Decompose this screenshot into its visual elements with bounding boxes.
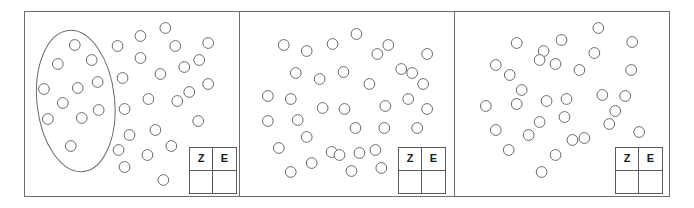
circle-outside-ellipse — [523, 130, 534, 141]
circle-outside-ellipse — [119, 162, 130, 173]
panel-1[interactable]: Z E — [25, 12, 239, 196]
circle-outside-ellipse — [556, 35, 567, 46]
circle-outside-ellipse — [490, 125, 501, 136]
circle-outside-ellipse — [143, 94, 154, 105]
circle-inside-ellipse — [39, 84, 50, 95]
circle-outside-ellipse — [480, 101, 491, 112]
circle-outside-ellipse — [273, 143, 284, 154]
circle-outside-ellipse — [155, 69, 166, 80]
circle-outside-ellipse — [158, 175, 169, 186]
circle-outside-ellipse — [534, 117, 545, 128]
score-value-z[interactable] — [616, 171, 639, 194]
circle-outside-ellipse — [396, 64, 407, 75]
circle-inside-ellipse — [72, 83, 83, 94]
circle-outside-ellipse — [538, 46, 549, 57]
circle-outside-ellipse — [511, 99, 522, 110]
figure-root: Z E Z E — [0, 0, 694, 208]
circle-outside-ellipse — [172, 96, 183, 107]
circle-outside-ellipse — [412, 123, 423, 134]
circle-inside-ellipse — [65, 141, 76, 152]
circle-inside-ellipse — [69, 40, 80, 51]
circle-outside-ellipse — [262, 116, 273, 127]
circle-inside-ellipse — [92, 77, 103, 88]
score-value-e[interactable] — [422, 171, 445, 194]
circle-outside-ellipse — [112, 41, 123, 52]
circle-outside-ellipse — [203, 38, 214, 49]
score-value-e[interactable] — [639, 171, 662, 194]
score-value-z[interactable] — [190, 171, 213, 194]
circle-inside-ellipse — [86, 55, 97, 66]
circle-outside-ellipse — [339, 104, 350, 115]
circle-outside-ellipse — [285, 94, 296, 105]
panel-3[interactable]: Z E — [454, 12, 669, 196]
circle-outside-ellipse — [407, 68, 418, 79]
circle-outside-ellipse — [135, 31, 146, 42]
circle-outside-ellipse — [119, 104, 130, 115]
circle-outside-ellipse — [511, 38, 522, 49]
circle-outside-ellipse — [354, 148, 365, 159]
circle-outside-ellipse — [135, 53, 146, 64]
circle-outside-ellipse — [550, 59, 561, 70]
circle-outside-ellipse — [160, 23, 171, 34]
circle-outside-ellipse — [346, 166, 357, 177]
circle-outside-ellipse — [604, 119, 615, 130]
circle-outside-ellipse — [589, 48, 600, 59]
circle-outside-ellipse — [338, 67, 349, 78]
circle-outside-ellipse — [561, 94, 572, 105]
circle-outside-ellipse — [536, 167, 547, 178]
circle-outside-ellipse — [597, 90, 608, 101]
circle-outside-ellipse — [327, 39, 338, 50]
circle-outside-ellipse — [351, 29, 362, 40]
circle-outside-ellipse — [142, 150, 153, 161]
circle-outside-ellipse — [292, 115, 303, 126]
circle-outside-ellipse — [379, 123, 390, 134]
circle-outside-ellipse — [117, 73, 128, 84]
circle-outside-ellipse — [317, 103, 328, 114]
circle-outside-ellipse — [516, 85, 527, 96]
circle-outside-ellipse — [150, 125, 161, 136]
circle-outside-ellipse — [490, 60, 501, 71]
circle-outside-ellipse — [579, 133, 590, 144]
circle-outside-ellipse — [376, 163, 387, 174]
circle-outside-ellipse — [203, 79, 214, 90]
score-header-z: Z — [190, 148, 213, 171]
score-table-panel-3[interactable]: Z E — [615, 147, 663, 194]
circle-outside-ellipse — [534, 55, 545, 66]
circle-outside-ellipse — [364, 79, 375, 90]
grouping-ellipse — [30, 26, 122, 175]
circle-outside-ellipse — [193, 116, 204, 127]
circle-outside-ellipse — [383, 40, 394, 51]
score-value-e[interactable] — [213, 171, 236, 194]
circle-outside-ellipse — [380, 101, 391, 112]
circle-inside-ellipse — [43, 114, 54, 125]
panel-row: Z E Z E — [24, 11, 670, 197]
circle-outside-ellipse — [262, 91, 273, 102]
circle-outside-ellipse — [301, 46, 312, 57]
score-table-panel-2[interactable]: Z E — [398, 147, 446, 194]
circle-outside-ellipse — [610, 106, 621, 117]
circle-outside-ellipse — [285, 167, 296, 178]
circle-outside-ellipse — [334, 150, 345, 161]
circle-outside-ellipse — [350, 123, 361, 134]
circle-outside-ellipse — [179, 62, 190, 73]
score-header-z: Z — [399, 148, 422, 171]
circle-outside-ellipse — [593, 23, 604, 34]
circle-outside-ellipse — [170, 41, 181, 52]
circle-outside-ellipse — [113, 145, 124, 156]
circle-outside-ellipse — [194, 55, 205, 66]
circle-outside-ellipse — [124, 130, 135, 141]
circle-inside-ellipse — [57, 98, 68, 109]
circle-outside-ellipse — [541, 96, 552, 107]
score-header-e: E — [639, 148, 662, 171]
circle-outside-ellipse — [184, 87, 195, 98]
circle-outside-ellipse — [567, 135, 578, 146]
score-header-z: Z — [616, 148, 639, 171]
panel-1-circle-group — [39, 23, 214, 186]
panel-2[interactable]: Z E — [239, 12, 454, 196]
circle-outside-ellipse — [326, 147, 337, 158]
circle-outside-ellipse — [403, 94, 414, 105]
circle-outside-ellipse — [620, 91, 631, 102]
score-value-z[interactable] — [399, 171, 422, 194]
score-table-panel-1[interactable]: Z E — [189, 147, 237, 194]
circle-inside-ellipse — [76, 113, 87, 124]
